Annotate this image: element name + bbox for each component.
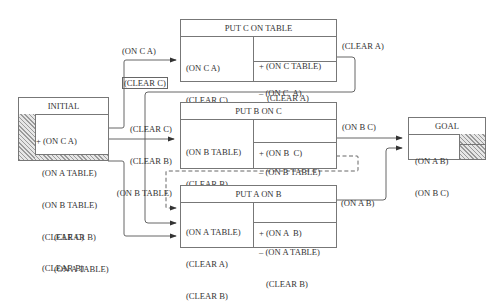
precondition: (CLEAR A) <box>186 259 241 270</box>
link-label-put-c: (ON C A) (CLEAR C) <box>122 25 168 99</box>
goal-hatch <box>459 134 485 159</box>
delete-effect: – (ON A TABLE) <box>259 247 320 258</box>
put-b-on-c-title: PUT B ON C <box>181 103 336 120</box>
effect: + (ON C A) <box>36 136 97 147</box>
delete-list: – (ON A TABLE) (CLEAR B) <box>259 226 320 305</box>
link-condition: (CLEAR C) <box>114 124 172 135</box>
precondition: (ON C A) <box>186 63 228 74</box>
initial-hatch-left <box>19 114 36 160</box>
link-condition: (CLEAR B) <box>54 232 109 243</box>
precondition: (ON B C) <box>415 188 449 199</box>
effect: (ON B TABLE) <box>36 200 97 211</box>
goal-node: GOAL (ON A B) (ON B C) <box>408 117 486 160</box>
delete-effect: – (ON C A) <box>259 88 302 99</box>
link-condition: (CLEAR B) <box>114 156 172 167</box>
link-label-put-a: (CLEAR B) (ON A TABLE) <box>54 211 109 285</box>
link-condition: (ON B TABLE) <box>114 188 172 199</box>
precondition: (ON B TABLE) <box>186 147 241 158</box>
delete-effect: (CLEAR B) <box>259 279 320 290</box>
link-condition: (ON A TABLE) <box>54 264 109 275</box>
link-condition: (ON C A) <box>122 46 168 57</box>
precondition: (CLEAR B) <box>186 291 241 302</box>
initial-node: INITIAL + (ON C A) (ON A TABLE) (ON B TA… <box>18 97 109 161</box>
link-label-clear-a: (CLEAR A) <box>342 41 384 52</box>
initial-title: INITIAL <box>19 98 108 115</box>
put-b-on-c-node: PUT B ON C (ON B TABLE) (CLEAR B) (CLEAR… <box>180 102 337 169</box>
link-label-on-b-c: (ON B C) <box>342 122 376 133</box>
put-a-on-b-title: PUT A ON B <box>181 186 336 203</box>
put-c-on-table-node: PUT C ON TABLE (ON C A) (CLEAR C) + (ON … <box>180 19 337 82</box>
precondition: (ON A B) <box>415 156 449 167</box>
put-a-on-b-node: PUT A ON B (ON A TABLE) (CLEAR A) (CLEAR… <box>180 185 337 248</box>
goal-title: GOAL <box>409 118 485 135</box>
goal-preconditions: (ON A B) (ON B C) <box>415 135 449 220</box>
link-label-on-a-b: (ON A B) <box>341 198 374 209</box>
precondition: (ON A TABLE) <box>186 227 241 238</box>
put-c-on-table-title: PUT C ON TABLE <box>181 20 336 37</box>
threatened-link-condition: (CLEAR C) <box>122 77 168 89</box>
effect: (ON A TABLE) <box>36 168 97 179</box>
link-label-put-b: (CLEAR C) (CLEAR B) (ON B TABLE) <box>114 103 172 209</box>
preconditions: (ON A TABLE) (CLEAR A) (CLEAR B) <box>186 206 241 305</box>
delete-effect: – (ON B TABLE) <box>259 167 320 178</box>
